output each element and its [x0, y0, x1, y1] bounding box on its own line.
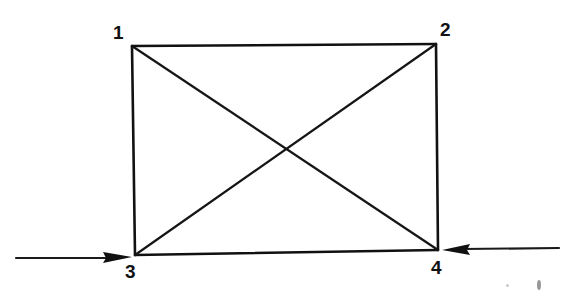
node-label-2: 2 — [440, 20, 451, 39]
node-label-1: 1 — [113, 23, 124, 42]
force-arrow-4-shaft — [462, 248, 559, 249]
edge-4-3 — [135, 250, 438, 255]
edge-1-2 — [132, 44, 436, 46]
scan-artifact — [506, 284, 509, 287]
node-label-3: 3 — [125, 262, 136, 281]
truss-diagram — [0, 0, 573, 292]
scan-artifact — [537, 280, 541, 290]
node-label-4: 4 — [431, 258, 442, 277]
diagonal-1-4 — [132, 46, 438, 250]
edge-2-4 — [436, 44, 438, 250]
force-arrow-4-head-icon — [442, 244, 470, 255]
edge-3-1 — [132, 46, 135, 255]
diagonal-2-3 — [135, 44, 436, 255]
